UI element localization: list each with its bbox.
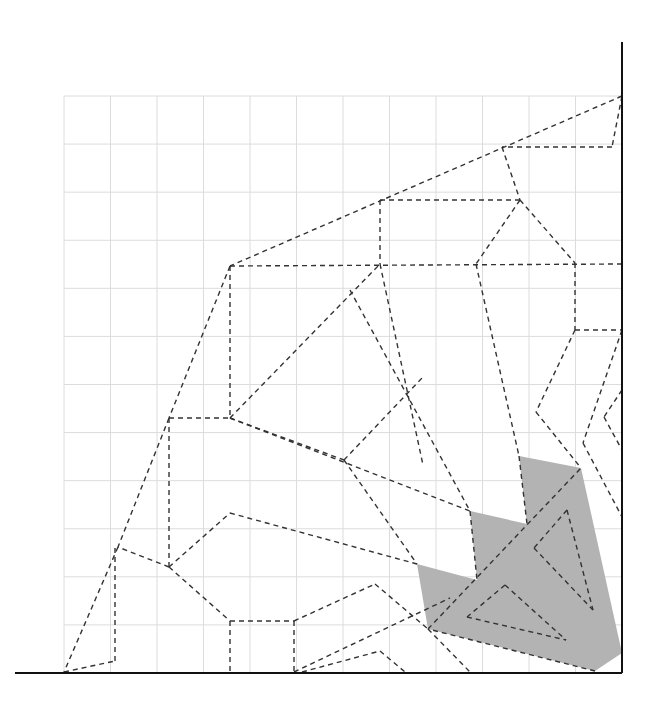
- crease-pattern-diagram: [0, 0, 657, 715]
